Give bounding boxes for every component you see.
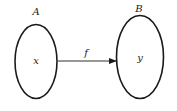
set-b: B y: [117, 3, 164, 99]
set-a-label: A: [31, 6, 39, 17]
set-b-label: B: [134, 3, 142, 14]
mapping-diagram: A x B y f: [0, 0, 177, 111]
mapping-arrow: f: [58, 47, 116, 61]
set-a: A x: [15, 6, 57, 99]
set-a-element: x: [33, 55, 39, 66]
set-b-element: y: [136, 52, 143, 63]
mapping-label: f: [83, 47, 90, 58]
